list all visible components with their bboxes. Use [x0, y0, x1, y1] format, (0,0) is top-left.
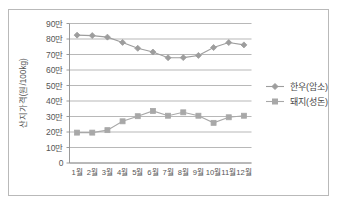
- data-point-marker: [195, 52, 201, 58]
- data-point-marker: [75, 130, 80, 135]
- legend-marker: [272, 84, 278, 90]
- data-point-marker: [120, 39, 126, 45]
- series-group: [74, 32, 247, 135]
- data-point-marker: [150, 49, 156, 55]
- data-point-marker: [74, 32, 80, 38]
- data-point-marker: [90, 130, 95, 135]
- data-point-marker: [150, 108, 155, 113]
- data-point-marker: [180, 55, 186, 61]
- data-point-marker: [226, 115, 231, 120]
- data-point-marker: [241, 42, 247, 48]
- data-point-marker: [226, 40, 232, 46]
- data-point-marker: [165, 55, 171, 61]
- chart-figure: 010만20만30만40만50만60만70만80만90만 1월2월3월4월5월6…: [0, 0, 337, 207]
- y-tick-label: 30만: [46, 112, 63, 122]
- x-tick-label: 10월: [206, 167, 221, 177]
- y-tick-label: 0: [59, 158, 64, 168]
- legend-item-2[interactable]: 돼지(성돈): [266, 97, 328, 107]
- data-point-marker: [120, 119, 125, 124]
- legend-label: 돼지(성돈): [290, 97, 328, 107]
- data-point-marker: [105, 128, 110, 133]
- data-point-marker: [241, 113, 246, 118]
- data-point-marker: [211, 120, 216, 125]
- y-axis-title-group: 산지가격(원/100kg): [18, 58, 28, 128]
- data-point-marker: [211, 45, 217, 51]
- x-tick-label: 12월: [236, 167, 251, 177]
- x-tick-label: 3월: [102, 167, 113, 177]
- x-tick-label: 8월: [178, 167, 189, 177]
- y-axis-title: 산지가격(원/100kg): [18, 58, 28, 128]
- x-tick-label: 4월: [117, 167, 128, 177]
- y-tick-label: 60만: [46, 65, 63, 75]
- y-tick-labels-group: 010만20만30만40만50만60만70만80만90만: [46, 19, 64, 169]
- y-tick-label: 20만: [46, 127, 63, 137]
- series-1: [74, 32, 247, 61]
- x-tick-label: 1월: [71, 167, 82, 177]
- legend-marker: [273, 99, 278, 104]
- chart-legend: 한우(암소)돼지(성돈): [266, 81, 328, 107]
- plot-area-wrapper: 010만20만30만40만50만60만70만80만90만 1월2월3월4월5월6…: [0, 0, 337, 207]
- series-2: [75, 108, 247, 135]
- x-tick-label: 6월: [147, 167, 158, 177]
- y-tick-label: 70만: [46, 50, 63, 60]
- data-point-marker: [89, 33, 95, 39]
- x-tick-label: 11월: [221, 167, 236, 177]
- data-point-marker: [181, 110, 186, 115]
- series-line: [77, 111, 244, 133]
- x-tick-label: 9월: [193, 167, 204, 177]
- line-chart: 010만20만30만40만50만60만70만80만90만 1월2월3월4월5월6…: [0, 0, 337, 207]
- y-tick-label: 80만: [46, 34, 63, 44]
- y-tick-label: 50만: [46, 81, 63, 91]
- y-tick-label: 90만: [46, 19, 63, 29]
- x-tick-label: 7월: [162, 167, 173, 177]
- legend-label: 한우(암소): [290, 81, 328, 92]
- x-tick-label: 5월: [132, 167, 143, 177]
- x-tick-label: 2월: [87, 167, 98, 177]
- data-point-marker: [135, 114, 140, 119]
- x-tick-labels-group: 1월2월3월4월5월6월7월8월9월10월11월12월: [71, 167, 251, 177]
- legend-item-1[interactable]: 한우(암소): [266, 81, 328, 92]
- y-tick-label: 10만: [46, 143, 63, 153]
- data-point-marker: [135, 45, 141, 51]
- data-point-marker: [166, 113, 171, 118]
- data-point-marker: [196, 113, 201, 118]
- y-tick-label: 40만: [46, 96, 63, 106]
